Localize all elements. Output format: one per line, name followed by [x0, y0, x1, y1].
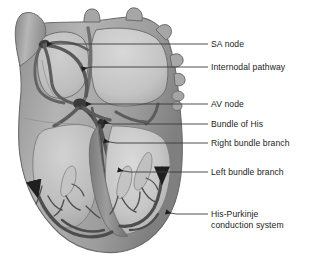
label-av-node: AV node [211, 99, 244, 109]
label-sa-node: SA node [211, 39, 244, 49]
label-bundle-of-his: Bundle of His [211, 119, 263, 129]
label-left-bundle-branch: Left bundle branch [211, 167, 284, 177]
label-his-purkinje-line1: His-Purkinje [211, 209, 258, 219]
label-right-bundle-branch: Right bundle branch [211, 138, 290, 148]
heart-conduction-diagram: SA node Internodal pathway AV node Bundl… [0, 0, 320, 264]
label-his-purkinje-line2: conduction system [211, 220, 284, 230]
label-internodal-pathway: Internodal pathway [211, 62, 285, 72]
leader-line-his-purkinje [166, 212, 208, 214]
